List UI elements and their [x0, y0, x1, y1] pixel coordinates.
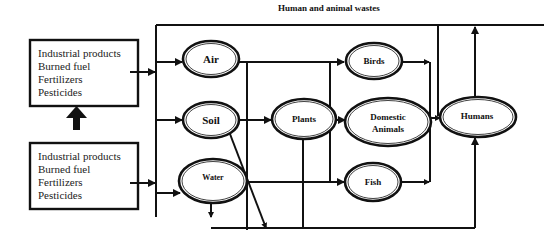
node-air-label: Air [203, 53, 219, 65]
node-air: Air [183, 41, 239, 77]
source-box-bottom: Industrial products Burned fuel Fertiliz… [30, 143, 138, 209]
node-plants-label: Plants [292, 114, 317, 124]
pollution-flow-diagram: Human and animal wastes Industrial produ… [0, 0, 544, 241]
diagram-title: Human and animal wastes [278, 3, 380, 13]
source-top-line-3: Fertilizers [38, 73, 83, 85]
source-top-line-2: Burned fuel [38, 60, 90, 72]
source-box-top: Industrial products Burned fuel Fertiliz… [30, 40, 138, 106]
source-bottom-line-1: Industrial products [38, 150, 121, 162]
node-birds-label: Birds [363, 56, 385, 66]
source-bottom-line-2: Burned fuel [38, 163, 90, 175]
node-soil: Soil [183, 102, 239, 138]
node-soil-label: Soil [202, 114, 220, 126]
node-domestic-label-2: Animals [372, 124, 405, 134]
node-domestic-label-1: Domestic [370, 112, 406, 122]
node-water: Water [179, 159, 247, 203]
source-bottom-line-3: Fertilizers [38, 176, 83, 188]
big-up-arrow-icon [66, 106, 87, 130]
node-fish-label: Fish [365, 177, 382, 187]
node-humans: Humans [440, 97, 516, 137]
node-water-label: Water [202, 173, 224, 182]
node-fish: Fish [345, 163, 401, 201]
source-top-line-1: Industrial products [38, 47, 121, 59]
node-domestic-animals: Domestic Animals [345, 98, 431, 146]
source-bottom-line-4: Pesticides [38, 189, 82, 201]
source-top-line-4: Pesticides [38, 86, 82, 98]
node-plants: Plants [272, 99, 336, 139]
flow-lines [211, 62, 475, 230]
node-birds: Birds [346, 43, 402, 79]
node-humans-label: Humans [461, 111, 494, 121]
